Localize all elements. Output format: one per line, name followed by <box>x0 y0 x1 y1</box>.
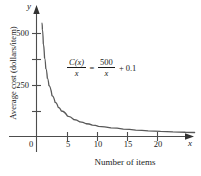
equation-annotation: C(x) x = 500 x + 0.1 <box>66 58 136 78</box>
y-axis-arrowhead <box>33 5 39 14</box>
equation-rhs-denominator: x <box>103 68 111 77</box>
equation-rhs-fraction: 500 x <box>98 58 115 78</box>
equation-lhs-denominator: x <box>73 68 81 77</box>
y-axis-variable-label: y <box>27 2 31 11</box>
x-tick-label-0: 0 <box>24 140 38 149</box>
x-axis-title: Number of items <box>55 158 195 167</box>
x-tick-label-10: 10 <box>91 140 105 149</box>
y-axis-title-text: Average cost (dollars/item) <box>8 26 18 119</box>
equation-lhs-numerator: C(x) <box>67 58 86 67</box>
equation-equals-sign: = <box>90 63 95 73</box>
average-cost-chart-figure: y x 500 250 0 5 10 15 20 Average cost (d… <box>0 0 201 176</box>
x-tick-label-5: 5 <box>61 140 75 149</box>
equation-rhs-numerator: 500 <box>98 58 115 67</box>
x-axis-variable-label: x <box>188 139 192 148</box>
equation-constant: 0.1 <box>126 63 137 73</box>
chart-plot-area <box>0 0 201 176</box>
equation-lhs-fraction: C(x) x <box>67 58 86 78</box>
x-tick-label-20: 20 <box>151 140 165 149</box>
equation-plus-sign: + <box>119 63 124 73</box>
x-tick-label-15: 15 <box>121 140 135 149</box>
y-axis-title: Average cost (dollars/item) <box>6 7 20 139</box>
